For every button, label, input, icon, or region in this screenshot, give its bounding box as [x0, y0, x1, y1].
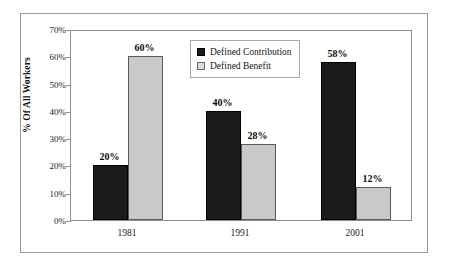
bar-1991-series0 [206, 111, 241, 220]
legend-label-defined-benefit: Defined Benefit [210, 61, 271, 71]
y-tick-label: 60% [32, 52, 66, 62]
legend-item-defined-contribution: Defined Contribution [197, 45, 292, 59]
bar-value-label: 28% [248, 130, 268, 141]
legend-swatch-icon-defined-benefit [197, 62, 205, 70]
legend-label-defined-contribution: Defined Contribution [210, 47, 292, 57]
y-tick-label: 40% [32, 107, 66, 117]
y-tick-label: 0% [32, 216, 66, 226]
x-category-label-2001: 2001 [346, 228, 365, 238]
x-category-label-1981: 1981 [118, 228, 137, 238]
bar-1981-series1 [128, 56, 163, 220]
y-tick-label: 30% [32, 134, 66, 144]
bar-1991-series1 [241, 144, 276, 220]
legend-swatch-icon-defined-contribution [197, 48, 205, 56]
y-tick-label: 20% [32, 161, 66, 171]
legend-item-defined-benefit: Defined Benefit [197, 59, 292, 73]
y-tick-label: 10% [32, 189, 66, 199]
y-tick-label: 50% [32, 80, 66, 90]
bar-value-label: 58% [328, 48, 348, 59]
chart-legend: Defined Contribution Defined Benefit [190, 40, 300, 78]
bar-value-label: 40% [213, 97, 233, 108]
bar-value-label: 60% [135, 42, 155, 53]
y-tick-label: 70% [32, 25, 66, 35]
bar-1981-series0 [93, 165, 128, 220]
x-category-label-1991: 1991 [231, 228, 250, 238]
bar-value-label: 12% [363, 173, 383, 184]
y-tick-mark [66, 221, 71, 222]
chart-figure: % Of All Workers 0%10%20%30%40%50%60%70%… [0, 0, 450, 271]
y-axis-title: % Of All Workers [22, 35, 32, 155]
bar-2001-series0 [321, 62, 356, 220]
bar-value-label: 20% [100, 151, 120, 162]
bar-2001-series1 [356, 187, 391, 220]
